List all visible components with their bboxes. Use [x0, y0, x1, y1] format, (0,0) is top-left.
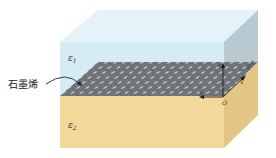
graphene-structure-diagram: ε1 ε2 石墨烯 O z y x SPP	[0, 0, 276, 158]
lower-medium-front-face	[60, 96, 224, 148]
graphene-label: 石墨烯	[8, 78, 38, 90]
upper-medium-top-face	[60, 10, 258, 42]
origin-label: O	[222, 99, 227, 106]
axis-y-label: y	[198, 88, 203, 96]
